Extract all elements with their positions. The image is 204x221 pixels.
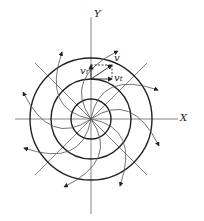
vt-subscript: t (120, 75, 123, 83)
vr-label: vr (80, 66, 89, 76)
y-axis-label: Y (94, 9, 101, 19)
vr-subscript: r (86, 68, 89, 76)
v-label: v (114, 53, 120, 63)
diagram-graphic (0, 0, 204, 221)
vt-label: vt (114, 73, 122, 83)
x-axis-label: X (180, 113, 187, 123)
diagram: X Y v vr vt (0, 0, 204, 221)
